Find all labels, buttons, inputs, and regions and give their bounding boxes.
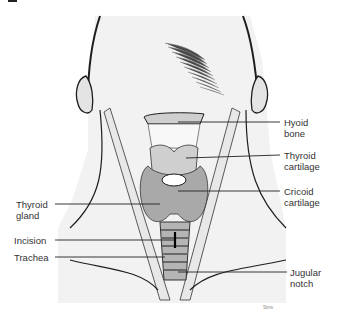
thyrohyoid-membrane <box>148 124 200 148</box>
label-jugular-notch: Jugular notch <box>290 267 321 289</box>
label-hyoid-bone: Hyoid bone <box>284 117 308 139</box>
label-cricoid-cartilage: Cricoid cartilage <box>284 186 320 208</box>
artist-signature: Sims <box>263 305 273 310</box>
label-thyroid-cartilage: Thyroid cartilage <box>284 150 320 172</box>
label-trachea: Trachea <box>14 252 49 263</box>
label-thyroid-gland: Thyroid gland <box>16 199 48 221</box>
label-incision: Incision <box>14 235 46 246</box>
cricoid-cartilage <box>162 174 186 186</box>
trachea <box>160 222 190 280</box>
neck-anatomy-diagram: Hyoid bone Thyroid cartilage Cricoid car… <box>0 0 341 322</box>
